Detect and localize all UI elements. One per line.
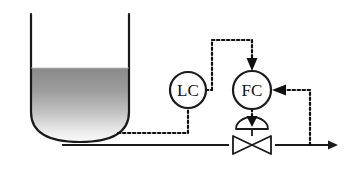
signal-line-flow-fc <box>284 90 310 145</box>
signal-flow-measurement <box>272 85 310 146</box>
flow-controller-bubble[interactable]: FC <box>233 71 271 109</box>
process-flow-diagram: LC FC <box>0 0 348 170</box>
process-diagram-canvas: LC FC <box>0 0 348 170</box>
valve-body-right <box>252 136 271 154</box>
level-controller-bubble[interactable]: LC <box>170 72 206 108</box>
tank-vessel <box>29 14 131 144</box>
tank-liquid <box>29 68 131 144</box>
lc-label: LC <box>177 81 199 100</box>
arrowhead-lc-fc <box>247 58 258 71</box>
pipe-flow-arrow <box>328 141 338 150</box>
fc-label: FC <box>241 81 262 100</box>
valve-body-left <box>233 136 252 154</box>
outlet-pipe <box>62 141 338 150</box>
arrowhead-flow-fc <box>272 85 286 96</box>
